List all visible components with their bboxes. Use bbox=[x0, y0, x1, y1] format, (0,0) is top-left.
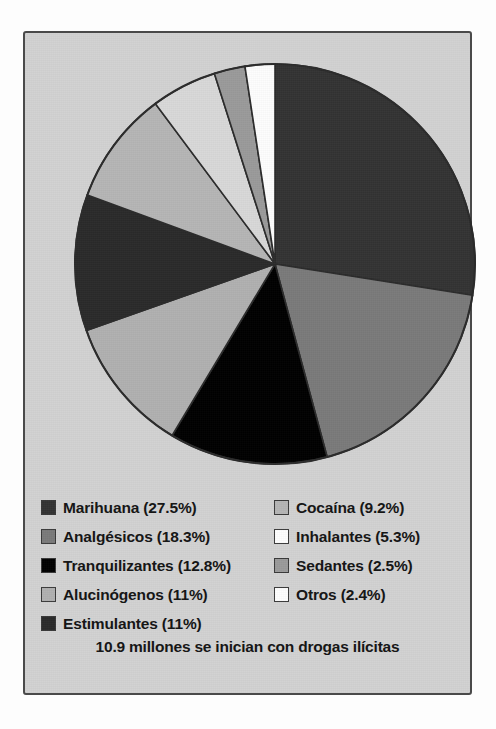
pie-chart bbox=[70, 59, 480, 469]
pie-slice-marihuana[interactable] bbox=[275, 64, 475, 295]
legend-item-analgesicos[interactable]: Analgésicos (18.3%) bbox=[41, 522, 274, 551]
legend-column-right: Cocaína (9.2%) Inhalantes (5.3%) Sedante… bbox=[274, 493, 466, 638]
legend-item-tranquilizantes[interactable]: Tranquilizantes (12.8%) bbox=[41, 551, 274, 580]
legend-item-sedantes[interactable]: Sedantes (2.5%) bbox=[274, 551, 466, 580]
legend-swatch-marihuana bbox=[41, 500, 56, 515]
legend-item-marihuana[interactable]: Marihuana (27.5%) bbox=[41, 493, 274, 522]
legend-item-otros[interactable]: Otros (2.4%) bbox=[274, 580, 466, 609]
legend-label-inhalantes: Inhalantes (5.3%) bbox=[296, 529, 420, 545]
pie-chart-svg bbox=[70, 59, 480, 469]
legend-label-tranquilizantes: Tranquilizantes (12.8%) bbox=[63, 558, 231, 574]
legend-item-alucinogenos[interactable]: Alucinógenos (11%) bbox=[41, 580, 274, 609]
legend-label-otros: Otros (2.4%) bbox=[296, 587, 386, 603]
scanned-page: Marihuana (27.5%) Analgésicos (18.3%) Tr… bbox=[0, 0, 496, 729]
legend-item-cocaina[interactable]: Cocaína (9.2%) bbox=[274, 493, 466, 522]
legend-swatch-alucinogenos bbox=[41, 587, 56, 602]
legend-swatch-analgesicos bbox=[41, 529, 56, 544]
chart-caption: 10.9 millones se inician con drogas ilíc… bbox=[25, 638, 470, 656]
legend-swatch-estimulantes bbox=[41, 616, 56, 631]
legend-swatch-inhalantes bbox=[274, 529, 289, 544]
legend-label-sedantes: Sedantes (2.5%) bbox=[296, 558, 413, 574]
legend-swatch-sedantes bbox=[274, 558, 289, 573]
legend-label-cocaina: Cocaína (9.2%) bbox=[296, 500, 404, 516]
legend-swatch-tranquilizantes bbox=[41, 558, 56, 573]
legend-label-analgesicos: Analgésicos (18.3%) bbox=[63, 529, 210, 545]
legend-swatch-otros bbox=[274, 587, 289, 602]
chart-legend: Marihuana (27.5%) Analgésicos (18.3%) Tr… bbox=[33, 493, 466, 638]
chart-panel: Marihuana (27.5%) Analgésicos (18.3%) Tr… bbox=[23, 31, 472, 695]
pie-slice-group bbox=[75, 64, 475, 464]
legend-label-marihuana: Marihuana (27.5%) bbox=[63, 500, 197, 516]
legend-column-left: Marihuana (27.5%) Analgésicos (18.3%) Tr… bbox=[33, 493, 274, 638]
legend-label-estimulantes: Estimulantes (11%) bbox=[63, 616, 202, 632]
legend-item-inhalantes[interactable]: Inhalantes (5.3%) bbox=[274, 522, 466, 551]
legend-item-estimulantes[interactable]: Estimulantes (11%) bbox=[41, 609, 274, 638]
legend-swatch-cocaina bbox=[274, 500, 289, 515]
legend-label-alucinogenos: Alucinógenos (11%) bbox=[63, 587, 208, 603]
